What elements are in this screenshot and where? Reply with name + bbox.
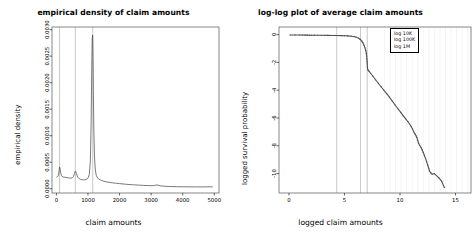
- svg-text:0.0025: 0.0025: [44, 47, 50, 66]
- svg-text:-10: -10: [271, 169, 277, 178]
- legend-item-log-1m: log 1M: [394, 44, 415, 50]
- loglog-legend: log 10K log 100K log 1M: [390, 28, 419, 53]
- svg-text:10: 10: [397, 197, 404, 203]
- svg-text:-2: -2: [271, 60, 277, 65]
- loglog-panel-y-axis-label: logged survival probability: [241, 92, 249, 185]
- svg-text:3000: 3000: [144, 197, 158, 203]
- svg-text:1000: 1000: [81, 197, 95, 203]
- svg-text:-4: -4: [271, 87, 277, 93]
- density-panel: empirical density of claim amounts empir…: [0, 0, 227, 233]
- svg-text:15: 15: [452, 197, 459, 203]
- loglog-plot-area: 0510150-2-4-6-8-10: [252, 0, 476, 233]
- density-plot-area: 0100020003000400050000.00000.00050.00100…: [0, 0, 227, 233]
- svg-text:0.0015: 0.0015: [44, 100, 50, 119]
- svg-text:2000: 2000: [113, 197, 127, 203]
- svg-text:0: 0: [55, 197, 59, 203]
- loglog-panel: log-log plot of average claim amounts lo…: [227, 0, 454, 233]
- svg-text:-8: -8: [271, 143, 277, 149]
- svg-text:5000: 5000: [207, 197, 221, 203]
- svg-text:0.0000: 0.0000: [44, 179, 50, 198]
- legend-item-log-100k: log 100K: [394, 37, 415, 43]
- svg-text:0: 0: [287, 197, 291, 203]
- svg-text:0.0005: 0.0005: [44, 153, 50, 172]
- svg-text:0.0030: 0.0030: [44, 20, 50, 39]
- svg-text:4000: 4000: [176, 197, 190, 203]
- svg-text:0: 0: [271, 32, 277, 36]
- svg-text:0.0010: 0.0010: [44, 126, 50, 145]
- svg-text:5: 5: [343, 197, 346, 203]
- svg-text:-6: -6: [271, 115, 277, 121]
- density-curve: [56, 35, 212, 187]
- svg-text:0.0020: 0.0020: [44, 73, 50, 92]
